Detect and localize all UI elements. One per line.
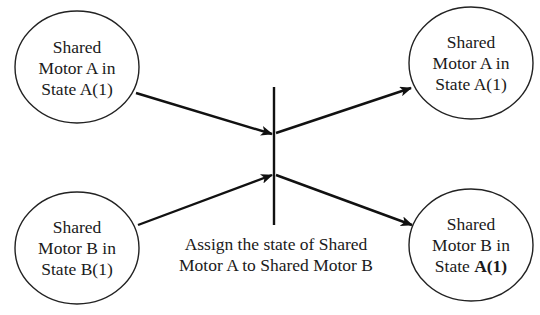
node-motor-a-input: Shared Motor A in State A(1) (15, 11, 139, 123)
node-label-line2: Motor A in (39, 58, 116, 78)
node-label-line3: State A(1) (435, 74, 507, 94)
transition-caption-line2: Motor A to Shared Motor B (179, 255, 373, 275)
node-motor-b-input: Shared Motor B in State B(1) (15, 192, 139, 304)
node-label-line1: Shared (447, 32, 496, 52)
node-label-line3: State A(1) (435, 256, 508, 276)
node-label-line2: Motor B in (38, 238, 116, 258)
arc-motor-a-to-transition (136, 93, 272, 134)
node-label-line2: Motor A in (433, 53, 510, 73)
node-label-line3: State B(1) (41, 259, 113, 279)
node-label-line1: Shared (447, 214, 496, 234)
petri-net-diagram: Shared Motor A in State A(1) Shared Moto… (0, 0, 540, 315)
node-motor-b-output: Shared Motor B in State A(1) (409, 189, 533, 301)
node-label-line1: Shared (53, 217, 102, 237)
arc-motor-b-to-transition (138, 175, 272, 225)
arc-transition-to-motor-a (276, 88, 411, 133)
node-motor-a-output: Shared Motor A in State A(1) (409, 7, 533, 119)
node-label-line3: State A(1) (41, 79, 113, 99)
arc-transition-to-motor-b (276, 175, 412, 225)
transition-caption-line1: Assign the state of Shared (185, 234, 368, 254)
node-label-line1: Shared (53, 37, 102, 57)
node-label-line2: Motor B in (432, 235, 510, 255)
